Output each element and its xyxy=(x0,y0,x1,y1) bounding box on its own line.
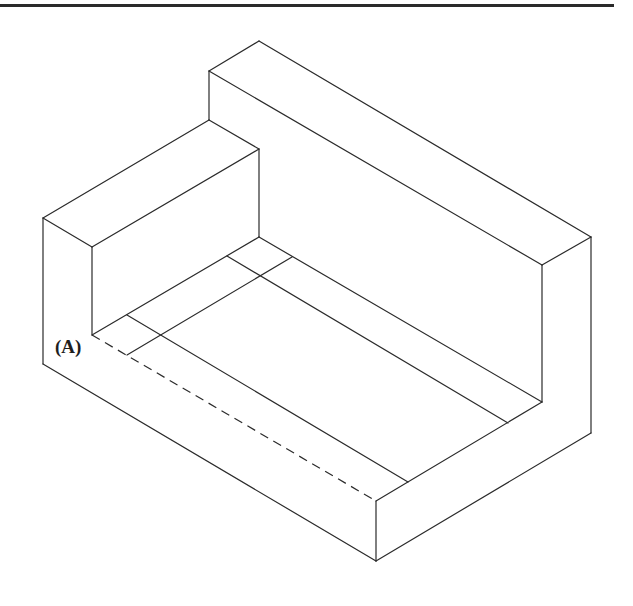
left-wall-top-face xyxy=(43,120,259,247)
left-wall-inner-face xyxy=(92,149,259,335)
isometric-block-drawing xyxy=(0,0,633,606)
point-a-label: (A) xyxy=(55,337,81,356)
front-top-edge xyxy=(376,402,542,501)
back-wall-top-face xyxy=(209,41,591,265)
outer-faces xyxy=(43,218,591,561)
